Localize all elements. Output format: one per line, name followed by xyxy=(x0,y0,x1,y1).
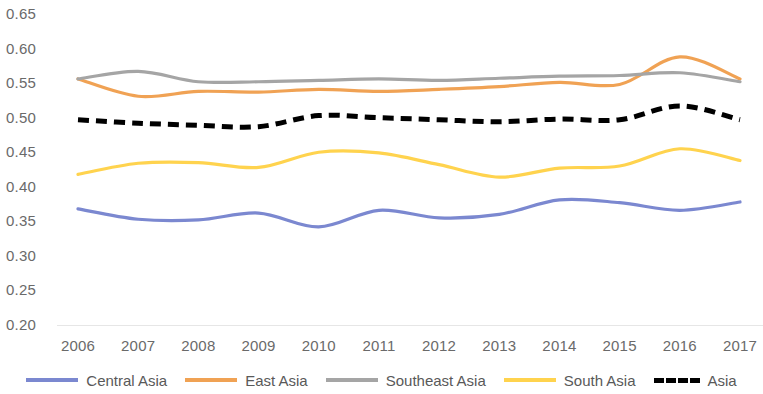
legend-label: Central Asia xyxy=(86,372,167,389)
legend-swatch-icon xyxy=(326,378,378,382)
legend-item-asia[interactable]: Asia xyxy=(654,372,737,389)
legend-item-east-asia[interactable]: East Asia xyxy=(185,372,308,389)
line-chart: 0.650.600.550.500.450.400.350.300.250.20… xyxy=(0,0,763,394)
plot-area xyxy=(0,0,763,394)
series-line-southeast-asia xyxy=(78,71,740,82)
legend-label: Asia xyxy=(708,372,737,389)
legend-item-central-asia[interactable]: Central Asia xyxy=(26,372,167,389)
legend-swatch-icon xyxy=(654,378,700,383)
legend-swatch-icon xyxy=(504,378,556,382)
legend-label: South Asia xyxy=(564,372,636,389)
series-line-asia xyxy=(78,106,740,127)
legend-item-southeast-asia[interactable]: Southeast Asia xyxy=(326,372,486,389)
legend-label: East Asia xyxy=(245,372,308,389)
legend-swatch-icon xyxy=(185,378,237,382)
legend-label: Southeast Asia xyxy=(386,372,486,389)
legend-swatch-icon xyxy=(26,378,78,382)
series-line-central-asia xyxy=(78,199,740,227)
series-line-south-asia xyxy=(78,149,740,177)
chart-legend: Central AsiaEast AsiaSoutheast AsiaSouth… xyxy=(0,366,763,394)
legend-item-south-asia[interactable]: South Asia xyxy=(504,372,636,389)
